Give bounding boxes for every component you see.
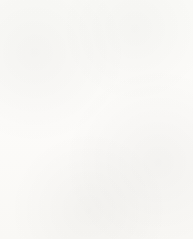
coordinate-plane [0, 0, 193, 239]
line-segment [63, 18, 165, 226]
y-axis-label: y [76, 9, 82, 23]
x-axis-label: x [171, 94, 178, 108]
origin-label: O [76, 88, 85, 101]
data-point [70, 202, 76, 208]
graph-figure: y x O [0, 0, 193, 239]
data-point [149, 41, 155, 47]
plotted-line [63, 18, 165, 226]
grid-lines [12, 13, 184, 227]
data-point [117, 109, 124, 116]
